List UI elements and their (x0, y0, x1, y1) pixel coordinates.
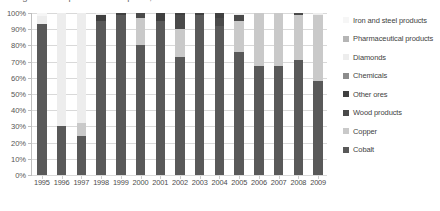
bar-segment (136, 45, 146, 175)
y-axis-tick-label: 70% (11, 57, 26, 66)
bar-group (313, 13, 323, 175)
bar-segment (175, 29, 185, 57)
bar-segment (234, 21, 244, 52)
plot-area: 0%10%20%30%40%50%60%70%80%90%100% 199519… (31, 13, 327, 176)
legend-item-label: Pharmaceutical products (353, 35, 433, 43)
bar-group (274, 13, 284, 175)
bar-segment (37, 24, 47, 175)
legend-swatch-icon (343, 110, 349, 116)
bar-segment (175, 15, 185, 30)
y-axis-tick-label: 0% (15, 171, 26, 180)
legend-item[interactable]: Other ores (343, 85, 438, 104)
stacked-bar (195, 13, 205, 175)
bar-segment (294, 60, 304, 175)
y-axis-tick-label: 30% (11, 122, 26, 131)
y-axis-tick-label: 100% (7, 9, 26, 18)
x-axis-tick-label: 2001 (152, 178, 168, 187)
bar-segment (77, 13, 87, 123)
bar-segment (313, 15, 323, 81)
bar-segment (96, 21, 106, 175)
legend-item[interactable]: Diamonds (343, 48, 438, 67)
legend-swatch-icon (343, 73, 349, 79)
bar-segment (175, 13, 185, 15)
legend-item[interactable]: Chemicals (343, 67, 438, 86)
stacked-bar (57, 13, 67, 175)
x-axis-tick-label: 2002 (172, 178, 188, 187)
legend-item-label: Wood products (353, 109, 402, 117)
x-axis-tick-label: 2006 (251, 178, 267, 187)
bar-group (234, 13, 244, 175)
legend-item-label: Copper (353, 128, 377, 136)
legend-item-label: Chemicals (353, 72, 387, 80)
legend-item[interactable]: Cobalt (343, 141, 438, 160)
bar-segment (136, 13, 146, 18)
bar-segment (195, 13, 205, 15)
bar-group (215, 13, 225, 175)
bar-segment (195, 15, 205, 175)
bar-segment (254, 13, 264, 66)
stacked-bar (136, 13, 146, 175)
legend-item[interactable]: Iron and steel products (343, 11, 438, 30)
bar-segment (77, 136, 87, 175)
bar-segment (215, 26, 225, 175)
bar-segment (96, 13, 106, 15)
bar-segment (234, 15, 244, 21)
stacked-bar (156, 13, 166, 175)
bar-segment (96, 15, 106, 21)
x-axis-tick-label: 1999 (113, 178, 129, 187)
bar-group (96, 13, 106, 175)
bar-segment (215, 18, 225, 26)
bar-segment (234, 13, 244, 15)
bar-segment (254, 66, 264, 175)
legend-item-label: Diamonds (353, 54, 386, 62)
stacked-bar (215, 13, 225, 175)
legend-item-label: Iron and steel products (353, 17, 427, 25)
bar-segment (313, 81, 323, 175)
y-axis-tick-label: 90% (11, 25, 26, 34)
stacked-bar (274, 13, 284, 175)
bar-segment (294, 13, 304, 15)
x-axis-tick-label: 2000 (133, 178, 149, 187)
y-axis-tick-mark (28, 110, 31, 111)
x-axis-tick-label: 2008 (290, 178, 306, 187)
y-axis-tick-mark (28, 175, 31, 176)
y-axis-tick-mark (28, 29, 31, 30)
legend-swatch-icon (343, 17, 349, 23)
x-axis-tick-label: 2007 (271, 178, 287, 187)
bar-segment (274, 13, 284, 66)
legend-item[interactable]: Pharmaceutical products (343, 30, 438, 49)
stacked-bar (294, 13, 304, 175)
bar-segment (136, 18, 146, 46)
legend-item[interactable]: Wood products (343, 104, 438, 123)
legend-swatch-icon (343, 128, 349, 134)
stacked-bar (254, 13, 264, 175)
bar-segment (234, 52, 244, 175)
legend-item[interactable]: Copper (343, 122, 438, 141)
bar-segment (57, 126, 67, 175)
bar-group (136, 13, 146, 175)
legend-swatch-icon (343, 91, 349, 97)
bar-group (175, 13, 185, 175)
legend-item-label: Other ores (353, 91, 387, 99)
x-axis-tick-label: 1997 (73, 178, 89, 187)
stacked-bar (116, 13, 126, 175)
y-axis-tick-label: 20% (11, 138, 26, 147)
legend-swatch-icon (343, 36, 349, 42)
bar-segment (274, 66, 284, 175)
stacked-column-chart: Figure: Composition of exports, shares o… (0, 0, 440, 211)
y-axis-tick-label: 80% (11, 41, 26, 50)
y-axis-tick-mark (28, 78, 31, 79)
bar-segment (294, 15, 304, 60)
bar-segment (116, 13, 126, 15)
legend-item-label: Cobalt (353, 146, 374, 154)
x-axis-tick-label: 1996 (54, 178, 70, 187)
legend-swatch-icon (343, 54, 349, 60)
x-axis-tick-label: 1998 (93, 178, 109, 187)
bar-segment (37, 13, 47, 16)
chart-legend: Iron and steel productsPharmaceutical pr… (343, 11, 438, 159)
chart-title-text: Figure: Composition of exports, shares o… (14, 0, 218, 2)
y-axis-tick-label: 10% (11, 154, 26, 163)
y-axis-tick-mark (28, 62, 31, 63)
bar-group (116, 13, 126, 175)
y-axis-tick-label: 60% (11, 73, 26, 82)
